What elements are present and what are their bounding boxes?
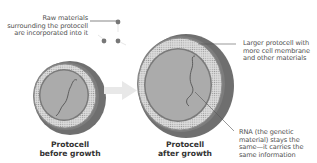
caption-before: Protocell before growth [30, 140, 110, 158]
larger-protocell-line-3: and other materials [243, 55, 317, 63]
caption-before-line-1: Protocell [30, 140, 110, 149]
protocell-after [137, 34, 234, 138]
larger-protocell-label: Larger protocell with more cell membrane… [243, 40, 317, 63]
caption-after-line-2: after growth [145, 149, 225, 158]
raw-materials-line-3: are incorporated into it [0, 30, 88, 38]
rna-line-4: same information [239, 152, 317, 160]
protocell-before [33, 61, 106, 135]
caption-after-line-1: Protocell [145, 140, 225, 149]
raw-materials-label: Raw materials surrounding the protocell … [0, 15, 88, 38]
caption-after: Protocell after growth [145, 140, 225, 158]
caption-before-line-2: before growth [30, 149, 110, 158]
raw-material-molecules [90, 20, 126, 45]
rna-label: RNA (the genetic material) stays the sam… [239, 129, 317, 159]
growth-arrow [104, 81, 137, 100]
